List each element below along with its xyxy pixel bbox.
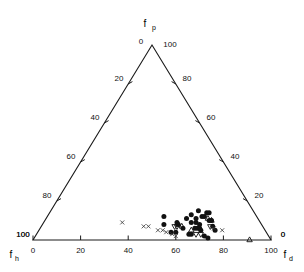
data-point-circle (184, 216, 189, 221)
ternary-chart-figure: 0 20 40 60 80 100 20 40 60 80 100 (0, 0, 304, 272)
right-tick-label-80: 80 (183, 74, 192, 83)
bottom-axis-tick-labels: 0 20 40 60 80 100 (31, 246, 278, 255)
bottom-tick-label-20: 20 (76, 246, 85, 255)
bottom-left-upper-label: 100 (16, 230, 30, 239)
svg-text:p: p (152, 24, 156, 32)
data-point-triangle-down (193, 232, 198, 237)
left-axis-tick-labels: 20 40 60 80 100 (16, 74, 124, 239)
apex-right-label: 100 (163, 40, 177, 49)
right-tick-label-40: 40 (231, 152, 240, 161)
bottom-tick-label-0: 0 (31, 246, 36, 255)
right-axis-tick-labels: 80 60 40 20 0 (183, 74, 286, 239)
bottom-tick-label-80: 80 (219, 246, 228, 255)
left-tick-label-20: 20 (115, 74, 124, 83)
axis-title-fd: f d (284, 249, 293, 262)
right-tick-label-20: 20 (255, 191, 264, 200)
data-point-x (164, 230, 168, 234)
left-tick-label-60: 60 (67, 152, 76, 161)
apex-left-label: 0 (139, 37, 144, 46)
axis-title-fh: f h (10, 249, 19, 262)
data-point-circle (189, 220, 194, 225)
data-point-x (161, 228, 165, 232)
svg-text:f: f (284, 249, 287, 260)
bottom-tick-label-100: 100 (264, 246, 278, 255)
data-point-x (146, 224, 150, 228)
data-point-layer (120, 208, 252, 241)
data-point-x (156, 228, 160, 232)
data-point-circle (196, 208, 201, 213)
data-point-circle (205, 236, 210, 241)
ternary-triangle-outline (33, 45, 271, 240)
right-tick-label-60: 60 (207, 113, 216, 122)
data-point-x (142, 224, 146, 228)
data-point-x (220, 228, 224, 232)
svg-text:d: d (289, 255, 293, 262)
bottom-axis-ticks (33, 236, 271, 241)
data-point-circle (207, 210, 212, 215)
data-point-x (120, 220, 124, 224)
svg-text:f: f (10, 249, 13, 260)
bottom-right-upper-label: 0 (281, 230, 286, 239)
svg-text:h: h (15, 255, 19, 262)
data-point-circle (161, 214, 166, 219)
svg-text:f: f (144, 18, 147, 29)
left-tick-label-40: 40 (91, 113, 100, 122)
ternary-plot-svg: 0 20 40 60 80 100 20 40 60 80 100 (0, 0, 304, 272)
data-point-circle (189, 212, 194, 217)
data-point-circle (161, 222, 166, 227)
data-point-triangle-up (247, 237, 252, 242)
axis-title-fp: f p (144, 18, 156, 32)
bottom-tick-label-40: 40 (124, 246, 133, 255)
bottom-tick-label-60: 60 (171, 246, 180, 255)
left-tick-label-80: 80 (43, 191, 52, 200)
